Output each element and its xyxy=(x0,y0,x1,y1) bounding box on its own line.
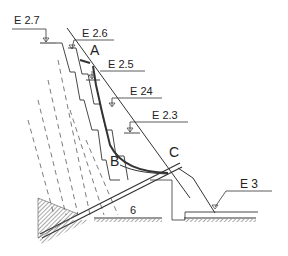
label-e25: E 2.5 xyxy=(108,58,134,70)
dashed-lines xyxy=(28,60,118,215)
label-e3: E 3 xyxy=(240,177,258,191)
elevation-marker-e3: E 3 xyxy=(212,177,272,209)
toe-slope xyxy=(178,168,215,213)
label-e27: E 2.7 xyxy=(14,14,40,26)
elevation-marker-e24: E 24 xyxy=(109,85,162,107)
label-e24: E 24 xyxy=(130,85,153,97)
label-e26: E 2.6 xyxy=(82,27,108,39)
point-label-a: A xyxy=(90,42,100,58)
elevation-marker-e23: E 2.3 xyxy=(124,109,188,133)
arrow-mark xyxy=(80,60,90,63)
section-number: 6 xyxy=(130,204,136,216)
ground-line xyxy=(38,218,256,244)
point-label-b: B xyxy=(110,153,119,169)
point-label-c: C xyxy=(169,144,179,160)
elevation-marker-e27: E 2.7 xyxy=(12,14,56,43)
label-e23: E 2.3 xyxy=(152,109,178,121)
cross-section-diagram: E 2.7 E 2.6 E 2.5 E 24 xyxy=(0,0,288,256)
